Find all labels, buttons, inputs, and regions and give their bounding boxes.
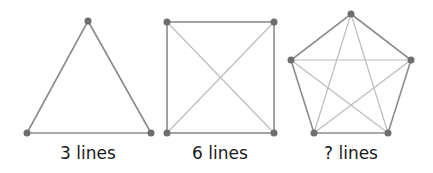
vertex-dot bbox=[348, 11, 355, 18]
pentagon-diagonal bbox=[351, 14, 388, 133]
pentagon-diagonal bbox=[314, 14, 351, 133]
pentagon-diagonal bbox=[291, 60, 388, 133]
vertex-dot bbox=[271, 130, 278, 137]
triangle-label: 3 lines bbox=[38, 143, 138, 163]
triangle-edge bbox=[27, 21, 88, 133]
vertex-dot bbox=[288, 57, 295, 64]
triangle-figure bbox=[24, 18, 155, 137]
vertex-dot bbox=[148, 130, 155, 137]
vertex-dot bbox=[164, 19, 171, 26]
vertex-dot bbox=[85, 18, 92, 25]
vertex-dot bbox=[24, 130, 31, 137]
triangle-edge bbox=[88, 21, 151, 133]
vertex-dot bbox=[271, 19, 278, 26]
pentagon-label: ? lines bbox=[301, 143, 401, 163]
pentagon-figure bbox=[288, 11, 415, 137]
square-figure bbox=[164, 19, 278, 137]
vertex-dot bbox=[408, 57, 415, 64]
vertex-dot bbox=[311, 130, 318, 137]
pentagon-diagonal bbox=[314, 60, 411, 133]
vertex-dot bbox=[385, 130, 392, 137]
vertex-dot bbox=[164, 130, 171, 137]
square-label: 6 lines bbox=[170, 143, 270, 163]
